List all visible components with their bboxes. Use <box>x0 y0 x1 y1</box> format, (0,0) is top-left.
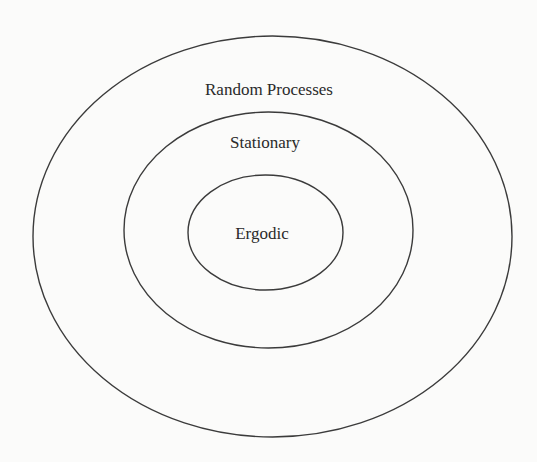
nested-sets-diagram: Random Processes Stationary Ergodic <box>0 0 537 462</box>
stationary-label: Stationary <box>230 133 300 152</box>
random-processes-label: Random Processes <box>205 80 333 99</box>
set-ergodic: Ergodic <box>188 175 343 290</box>
ergodic-label: Ergodic <box>235 224 289 243</box>
